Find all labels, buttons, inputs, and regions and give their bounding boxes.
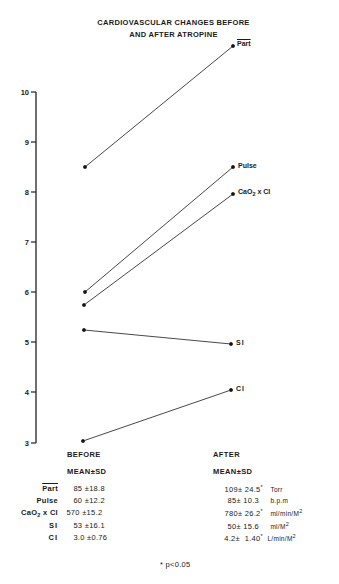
after-value: 50± 15.6 [213, 522, 259, 531]
table-row: SI 53 ±16.1 [0, 521, 105, 530]
table-row: Part 85 ±18.8 [0, 484, 105, 493]
y-tick-9: 9 [25, 138, 29, 147]
row-label: CaO2 x CI [0, 508, 58, 518]
unit: b.p.m [270, 497, 288, 504]
series-cao2ci-line [84, 194, 233, 305]
series-label-part: Part [237, 40, 251, 47]
after-header: AFTER [213, 450, 240, 459]
row-label: Pulse [0, 496, 58, 505]
series-cao2ci-before-point [82, 303, 85, 306]
series-label-si: SI [236, 339, 245, 346]
series-ci-after-point [229, 388, 232, 391]
series-si-after-point [229, 342, 232, 345]
before-value: 570 ±15.2 [66, 508, 102, 517]
unit: ml/M2 [270, 523, 289, 530]
y-tick-5: 5 [25, 338, 29, 347]
table-row: CaO2 x CI 570 ±15.2 [0, 508, 102, 518]
series-part-after-point [231, 44, 234, 47]
table-row: CI 3.0 ±0.76 [0, 533, 107, 542]
y-tick-4: 4 [25, 388, 30, 397]
y-tick-6: 6 [25, 288, 29, 297]
after-value: 109± 24.5* [213, 484, 263, 494]
after-mean-sd-header: MEAN±SD [213, 467, 252, 476]
before-value: 3.0 ±0.76 [73, 533, 107, 542]
y-tick-3: 3 [25, 439, 29, 448]
before-value: 60 ±12.2 [73, 496, 105, 505]
row-label: Part [0, 484, 58, 493]
unit: L/min/M2 [267, 535, 296, 542]
table-row: 109± 24.5* Torr [213, 484, 283, 494]
series-ci-before-point [81, 439, 84, 442]
series-label-ci: CI [236, 385, 245, 392]
table-row: 4.2± 1.40* L/min/M2 [213, 533, 296, 543]
series-label-cao2ci: CaO2 x CI [238, 188, 270, 197]
series-pulse-line [85, 167, 233, 292]
before-value: 53 ±16.1 [73, 521, 105, 530]
before-header: BEFORE [67, 450, 101, 459]
after-value: 85± 10.3 [213, 496, 259, 505]
y-tick-7: 7 [25, 238, 29, 247]
series-ci-line [83, 390, 231, 441]
before-value: 85 ±18.8 [73, 484, 105, 493]
series-si-line [84, 330, 231, 344]
table-row: Pulse 60 ±12.2 [0, 496, 105, 505]
y-ticks [31, 92, 36, 443]
y-tick-8: 8 [25, 188, 29, 197]
unit: Torr [270, 486, 282, 493]
series-pulse-after-point [231, 165, 234, 168]
series-cao2ci-after-point [231, 192, 234, 195]
after-value: 780± 26.2* [213, 508, 263, 518]
series-pulse-before-point [83, 290, 86, 293]
after-value: 4.2± 1.40* [213, 533, 263, 543]
y-tick-labels: 10 9 8 7 6 5 4 3 [21, 88, 30, 448]
row-label: SI [0, 521, 58, 530]
table-row: 85± 10.3 b.p.m [213, 496, 288, 505]
series-part-before-point [83, 165, 86, 168]
y-tick-10: 10 [21, 88, 29, 97]
series-label-pulse: Pulse [238, 162, 257, 169]
unit: ml/min/M2 [270, 510, 302, 517]
series-part-line [85, 46, 233, 167]
row-label: CI [0, 533, 58, 542]
footnote: * p<0.05 [160, 560, 191, 569]
series-si-before-point [82, 328, 85, 331]
table-row: 50± 15.6 ml/M2 [213, 521, 289, 531]
table-row: 780± 26.2* ml/min/M2 [213, 508, 303, 518]
before-mean-sd-header: MEAN±SD [67, 467, 106, 476]
